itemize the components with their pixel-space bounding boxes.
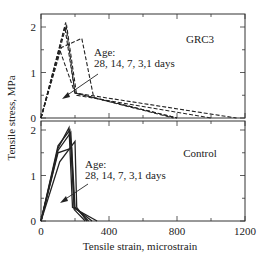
top-annotation-line2: 28, 14, 7, 3,1 days [94,57,175,69]
x-tick-800: 800 [169,225,186,237]
top-panel: 0 1 2 GRC3 Age: 28, 14, 7, 3,1 days [31,14,246,124]
x-axis-label: Tensile strain, microstrain [83,240,198,252]
bottom-arrowhead-icon [60,196,68,203]
top-y-tick-1: 1 [31,67,37,79]
y-axis-label: Tensile stress, MPa [5,75,17,160]
x-tick-1200: 1200 [234,225,257,237]
series-line-7-days [41,27,177,118]
bottom-annotation-line2: 28, 14, 7, 3,1 days [85,169,166,181]
bottom-y-tick-2: 2 [31,124,37,136]
top-arrowhead-icon [62,92,70,99]
bottom-panel-label: Control [183,147,217,159]
bottom-y-tick-0: 0 [31,215,37,227]
top-y-tick-0: 0 [31,112,37,124]
x-tick-400: 400 [101,225,118,237]
series-line-7-days [41,132,89,221]
bottom-panel: 0 1 2 Control Age: 28, 14, 7, 3,1 days [31,121,246,227]
top-panel-label: GRC3 [186,33,215,45]
x-tick-0: 0 [38,225,44,237]
top-y-tick-2: 2 [31,21,37,33]
chart-figure: Tensile stress, MPa 0 1 2 GRC3 Age: 28, … [0,0,266,263]
bottom-y-tick-1: 1 [31,170,37,182]
series-line-3-days [41,141,87,221]
